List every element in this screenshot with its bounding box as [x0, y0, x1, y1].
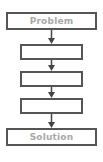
arrow-down-icon [48, 87, 55, 98]
arrow-down-icon [48, 30, 55, 44]
step-box-3 [20, 98, 83, 114]
step-box-2 [20, 71, 83, 87]
solution-box: Solution [6, 128, 97, 146]
step-box-1 [20, 44, 83, 60]
problem-box: Problem [6, 12, 97, 30]
arrow-down-icon [48, 114, 55, 128]
solution-label: Solution [30, 133, 74, 142]
arrow-down-icon [48, 60, 55, 71]
problem-label: Problem [30, 17, 74, 26]
